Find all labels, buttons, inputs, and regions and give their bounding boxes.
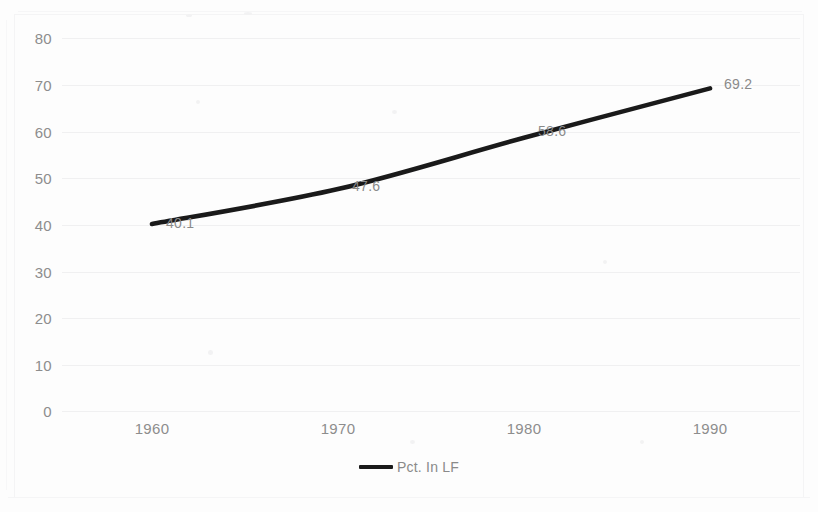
series-line-pct-in-lf bbox=[0, 0, 818, 512]
data-label-1960: 40.1 bbox=[166, 215, 194, 231]
series-path-pct-in-lf bbox=[152, 88, 710, 224]
legend-item-pct-in-lf[interactable]: Pct. In LF bbox=[359, 459, 459, 475]
plot-area: 80 70 60 50 40 30 20 10 0 1960 1970 1980… bbox=[0, 0, 818, 512]
chart-legend: Pct. In LF bbox=[0, 459, 818, 475]
chart-page: 80 70 60 50 40 30 20 10 0 1960 1970 1980… bbox=[0, 0, 818, 512]
data-label-1970: 47.6 bbox=[352, 178, 380, 194]
data-label-1990: 69.2 bbox=[724, 76, 752, 92]
legend-line-swatch-icon bbox=[359, 465, 393, 469]
data-label-1980: 58.6 bbox=[538, 123, 566, 139]
legend-item-label: Pct. In LF bbox=[397, 459, 459, 475]
